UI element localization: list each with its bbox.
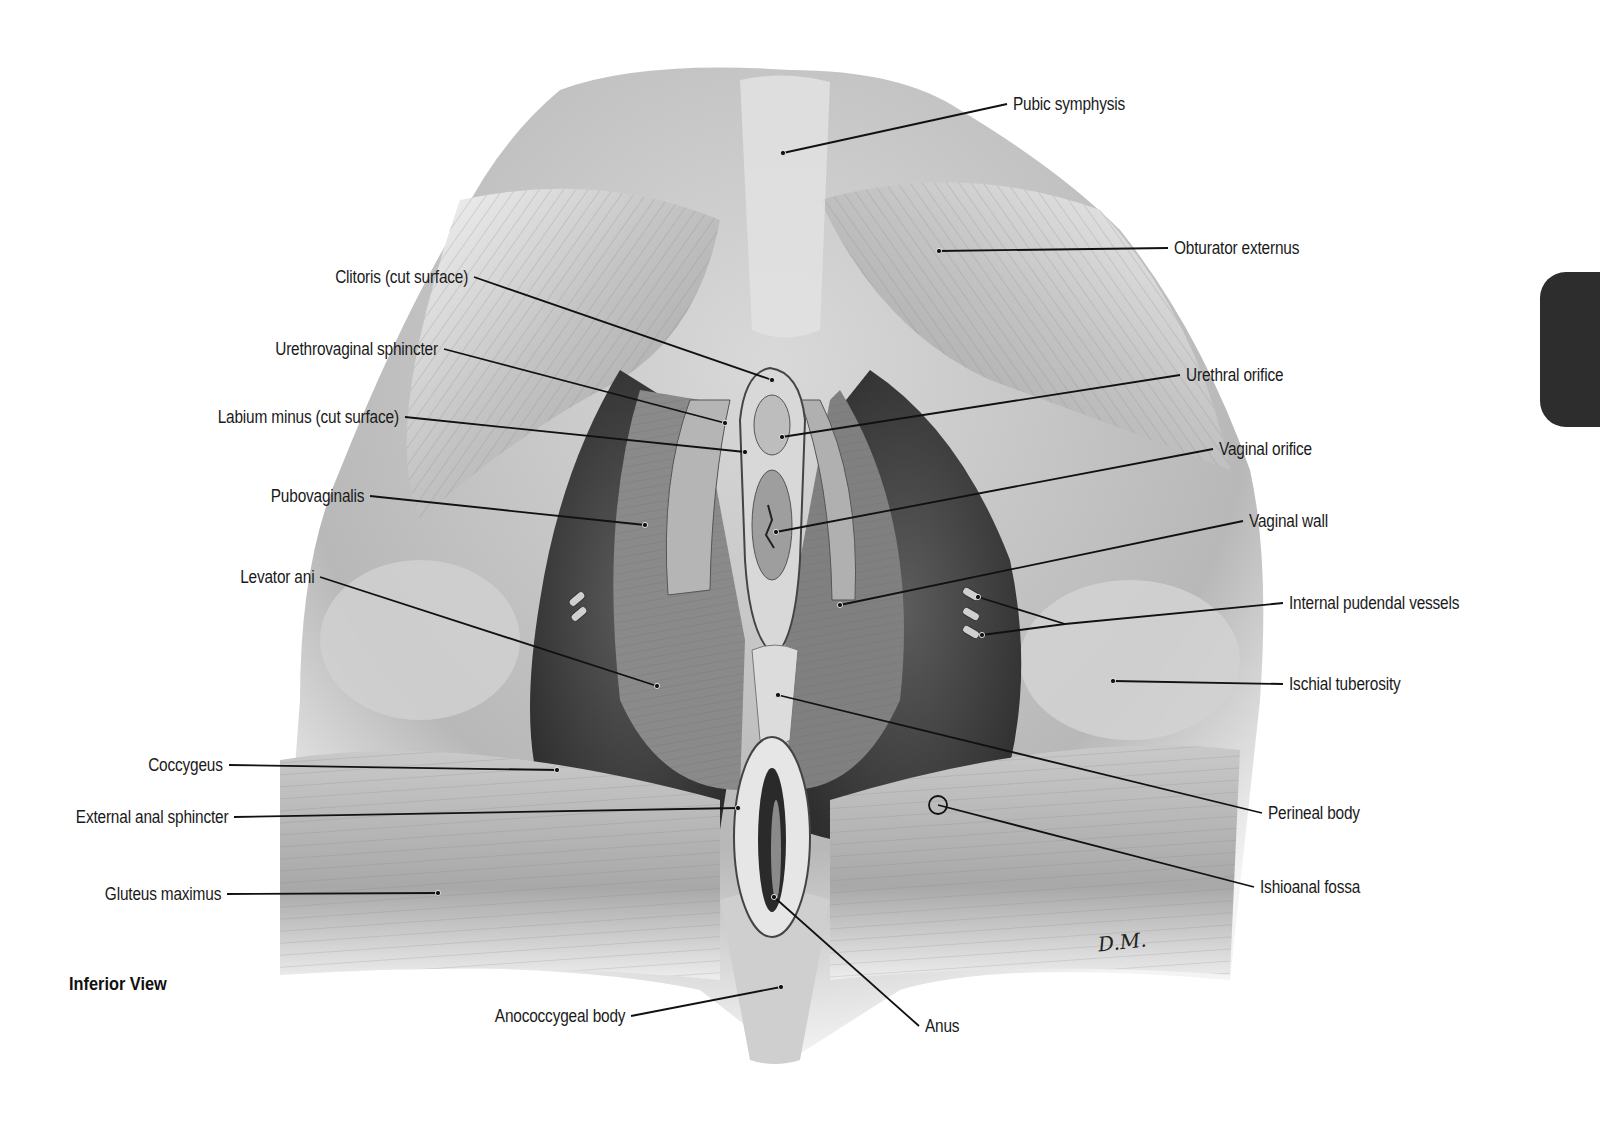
perineal-body (752, 645, 798, 746)
target-dot-marker (771, 894, 776, 899)
pubic-symphysis-band (740, 75, 830, 337)
label-internal-pudendal-vessels: Internal pudendal vessels (1289, 593, 1459, 613)
target-dot-marker (742, 449, 747, 454)
target-dot-marker (769, 377, 774, 382)
ischial-tuberosity-right (1020, 580, 1240, 740)
target-dot-marker (735, 805, 740, 810)
label-coccygeus: Coccygeus (148, 755, 223, 775)
vaginal-orifice-area (752, 470, 792, 580)
urethral-orifice-area (754, 395, 790, 455)
label-ischial-tuberosity: Ischial tuberosity (1289, 674, 1401, 694)
artist-signature: D.M. (1097, 928, 1148, 957)
label-clitoris-cut-surface: Clitoris (cut surface) (335, 267, 468, 287)
label-urethral-orifice: Urethral orifice (1186, 365, 1283, 385)
target-dot-marker (975, 594, 980, 599)
anal-canal-highlight (771, 800, 781, 900)
label-gluteus-maximus: Gluteus maximus (105, 884, 221, 904)
target-dot-marker (778, 984, 783, 989)
target-dot-marker (780, 150, 785, 155)
label-perineal-body: Perineal body (1268, 803, 1360, 823)
view-label: Inferior View (69, 973, 167, 995)
target-dot-marker (773, 529, 778, 534)
target-dot-marker (642, 522, 647, 527)
label-vaginal-wall: Vaginal wall (1249, 511, 1328, 531)
label-levator-ani: Levator ani (240, 567, 314, 587)
label-anus: Anus (925, 1016, 959, 1036)
target-dot-marker (775, 692, 780, 697)
gluteus-maximus-left-fibers (280, 751, 720, 980)
target-dot-marker (837, 602, 842, 607)
label-pubic-symphysis: Pubic symphysis (1013, 94, 1125, 114)
label-obturator-externus: Obturator externus (1174, 238, 1299, 258)
ischial-tuberosity-left (320, 560, 520, 720)
label-urethrovaginal-sphincter: Urethrovaginal sphincter (275, 339, 438, 359)
chapter-edge-tab (1540, 272, 1600, 427)
target-dot-marker (722, 420, 727, 425)
leader-line (227, 893, 438, 894)
label-labium-minus-cut-surface: Labium minus (cut surface) (218, 407, 399, 427)
target-dot-marker (435, 890, 440, 895)
target-dot-marker (779, 434, 784, 439)
label-vaginal-orifice: Vaginal orifice (1219, 439, 1312, 459)
target-dot-marker (554, 767, 559, 772)
target-dot-marker (936, 248, 941, 253)
target-dot-marker (979, 632, 984, 637)
target-dot-marker (654, 683, 659, 688)
label-ishioanal-fossa: Ishioanal fossa (1260, 877, 1360, 897)
label-external-anal-sphincter: External anal sphincter (75, 807, 228, 827)
label-pubovaginalis: Pubovaginalis (270, 486, 364, 506)
label-anococcygeal-body: Anococcygeal body (494, 1006, 625, 1026)
target-dot-marker (1110, 678, 1115, 683)
